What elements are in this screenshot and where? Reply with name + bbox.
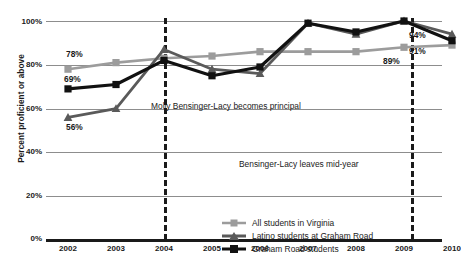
data-point [64, 66, 71, 73]
legend-label-latino: Latino students at Graham Road [252, 231, 373, 241]
data-point [160, 57, 167, 64]
legend-swatch-virginia [222, 218, 246, 229]
y-tick-40: 40% [8, 147, 42, 156]
y-tick-100: 100% [8, 17, 42, 26]
value-label-latino-2010: 94% [409, 30, 426, 40]
annotation-leaves: Bensinger-Lacy leaves mid-year [239, 159, 359, 169]
data-point [112, 59, 119, 66]
data-point [304, 48, 311, 55]
x-tick-2005: 2005 [203, 244, 221, 253]
y-axis-tick-labels: 100% 80% 60% 40% 20% 0% [4, 0, 42, 278]
y-tick-20: 20% [8, 191, 42, 200]
annotation-principal: Molly Bensinger-Lacy becomes principal [151, 101, 301, 111]
x-tick-2003: 2003 [107, 244, 125, 253]
y-tick-0: 0% [8, 234, 42, 243]
data-point [208, 52, 215, 59]
y-tick-60: 60% [8, 104, 42, 113]
x-axis-tick-labels: 2002 2003 2004 2005 2006 2007 2008 2009 … [46, 244, 442, 264]
value-label-virginia-2010: 89% [383, 56, 400, 66]
x-tick-2006: 2006 [251, 244, 269, 253]
data-point [400, 17, 407, 24]
legend-swatch-latino [222, 231, 246, 242]
legend-label-virginia: All students in Virginia [252, 218, 334, 228]
legend-item-virginia[interactable]: All students in Virginia [222, 217, 373, 229]
value-label-graham-2002: 69% [64, 74, 81, 84]
data-point [112, 81, 119, 88]
plot-area: Molly Bensinger-Lacy becomes principal B… [46, 21, 442, 240]
value-label-graham-2010: 91% [409, 46, 426, 56]
data-point [64, 85, 71, 92]
x-tick-2008: 2008 [347, 244, 365, 253]
legend-item-latino[interactable]: Latino students at Graham Road [222, 230, 373, 242]
x-tick-2004: 2004 [155, 244, 173, 253]
x-tick-2002: 2002 [59, 244, 77, 253]
series-lines [46, 21, 442, 240]
data-point [352, 48, 359, 55]
x-tick-2010: 2010 [443, 244, 461, 253]
data-point [160, 45, 169, 53]
data-point [208, 72, 215, 79]
data-point [448, 37, 455, 44]
x-tick-2009: 2009 [395, 244, 413, 253]
data-point [256, 63, 263, 70]
data-point [256, 48, 263, 55]
x-tick-2007: 2007 [299, 244, 317, 253]
y-tick-80: 80% [8, 60, 42, 69]
value-label-virginia-2002: 78% [66, 49, 83, 59]
value-label-latino-2002: 56% [66, 122, 83, 132]
data-point [304, 20, 311, 27]
data-point [352, 28, 359, 35]
data-point [400, 44, 407, 51]
